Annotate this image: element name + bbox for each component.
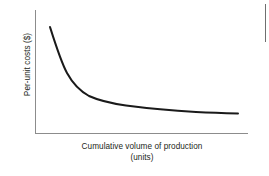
x-axis-label: Cumulative volume of production (units): [35, 141, 249, 163]
x-axis-label-line1: Cumulative volume of production: [82, 142, 203, 151]
experience-curve-figure: Per-unit costs ($) Cumulative volume of …: [0, 0, 269, 176]
per-unit-cost-curve: [50, 27, 238, 113]
edge-rule-artifact: [265, 4, 266, 42]
x-axis-label-line2: (units): [35, 152, 249, 163]
y-axis-label: Per-unit costs ($): [23, 5, 32, 125]
